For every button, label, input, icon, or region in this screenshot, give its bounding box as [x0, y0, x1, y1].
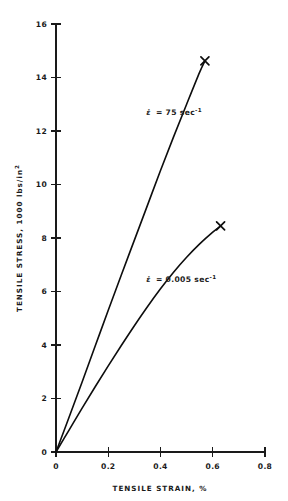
x-tick-label: 0	[53, 462, 59, 471]
strain-rate-symbol: ε̇	[146, 108, 151, 117]
series-curve-1	[56, 226, 221, 452]
endpoint-marker-1	[217, 222, 225, 230]
y-tick-label: 16	[36, 20, 47, 29]
axis-titles: TENSILE STRESS, 1000 lbs/in2 TENSILE STR…	[14, 164, 207, 493]
series-annotations: ε̇ = 75 sec-1ε̇ = 0.005 sec-1	[146, 107, 216, 284]
y-tick-label: 2	[41, 394, 47, 403]
y-tick-label: 0	[41, 448, 47, 457]
x-tick-label: 0.8	[258, 462, 272, 471]
x-axis-title: TENSILE STRAIN, %	[113, 484, 208, 493]
strain-rate-symbol: ε̇	[146, 275, 151, 284]
endpoint-marker-0	[201, 57, 209, 65]
y-tick-label: 4	[41, 341, 47, 350]
annotation-text: = 0.005 sec	[153, 275, 210, 284]
x-tick-label: 0.6	[206, 462, 220, 471]
axes-group	[56, 24, 265, 452]
annotation-exponent: -1	[195, 107, 202, 113]
y-axis-title-text: TENSILE STRESS, 1000 lbs/in	[15, 169, 24, 312]
data-point-markers	[201, 57, 225, 230]
annotation-exponent: -1	[210, 274, 217, 280]
x-tick-label: 0.4	[153, 462, 167, 471]
x-axis-ticks: 00.20.40.60.8	[53, 447, 272, 471]
y-axis-title-exponent: 2	[14, 164, 20, 169]
y-tick-label: 10	[36, 180, 47, 189]
figure-container: 0246810121416 00.20.40.60.8 ε̇ = 75 sec-…	[0, 0, 288, 501]
y-axis-title: TENSILE STRESS, 1000 lbs/in2	[14, 164, 24, 312]
x-tick-label: 0.2	[101, 462, 115, 471]
annotation-text: = 75 sec	[153, 108, 195, 117]
y-tick-label: 6	[41, 287, 47, 296]
series-annotation-0: ε̇ = 75 sec-1	[146, 107, 202, 117]
data-series-group	[56, 61, 221, 452]
y-axis-ticks: 0246810121416	[36, 20, 61, 457]
y-tick-label: 14	[36, 73, 47, 82]
series-curve-0	[56, 61, 205, 452]
y-tick-label: 8	[41, 234, 47, 243]
chart-canvas: 0246810121416 00.20.40.60.8 ε̇ = 75 sec-…	[0, 0, 288, 501]
y-tick-label: 12	[36, 127, 47, 136]
series-annotation-1: ε̇ = 0.005 sec-1	[146, 274, 216, 284]
